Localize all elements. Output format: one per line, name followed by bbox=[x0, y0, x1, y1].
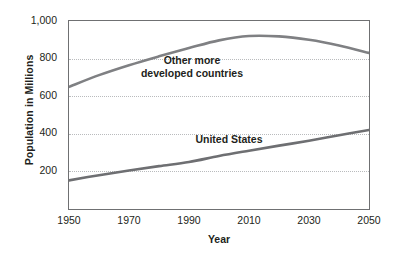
x-tick-label-1990: 1990 bbox=[177, 214, 200, 226]
series-label-united-states: United States bbox=[169, 133, 289, 146]
plot-area: Other more developed countries United St… bbox=[68, 20, 370, 210]
y-tick-label-800: 800 bbox=[0, 52, 63, 63]
series-label-us-line1: United States bbox=[169, 133, 289, 146]
series-lines bbox=[69, 21, 369, 209]
y-tick-label-1000: 1,000 bbox=[0, 15, 63, 26]
x-axis-tick-labels: 195019701990201020302050 bbox=[68, 214, 370, 228]
y-tick-label-400: 400 bbox=[0, 127, 63, 138]
x-tick-label-1970: 1970 bbox=[117, 214, 140, 226]
x-tick-label-2010: 2010 bbox=[237, 214, 260, 226]
x-tick-label-2050: 2050 bbox=[357, 214, 380, 226]
x-tick-label-1950: 1950 bbox=[57, 214, 80, 226]
y-tick-label-600: 600 bbox=[0, 90, 63, 101]
y-tick-label-200: 200 bbox=[0, 165, 63, 176]
x-tick-label-2030: 2030 bbox=[297, 214, 320, 226]
y-axis-tick-labels: 2004006008001,000 bbox=[0, 0, 63, 261]
series-label-other-line2: developed countries bbox=[128, 67, 256, 80]
series-label-other-more-developed-countries: Other more developed countries bbox=[128, 54, 256, 80]
x-axis-title: Year bbox=[68, 233, 370, 245]
series-label-other-line1: Other more bbox=[128, 54, 256, 67]
chart-container: Population in Millions 2004006008001,000… bbox=[0, 0, 397, 261]
